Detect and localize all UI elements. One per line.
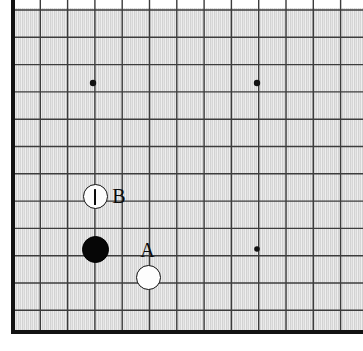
point-label-b: B <box>112 186 125 206</box>
white-stone-marked[interactable] <box>83 184 108 209</box>
go-board-diagram: BA <box>0 0 363 351</box>
black-stone[interactable] <box>82 236 109 263</box>
stones-layer: BA <box>0 0 363 351</box>
point-label-a: A <box>140 240 154 260</box>
white-stone-a[interactable] <box>136 265 161 290</box>
stone-marker-bar-icon <box>94 189 97 206</box>
